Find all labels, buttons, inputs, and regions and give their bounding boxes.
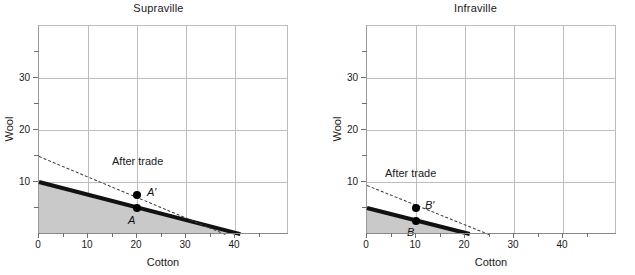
x-tick-minor-5 <box>63 233 64 237</box>
x-tick-minor-35 <box>538 233 539 237</box>
y-tick-20 <box>361 129 366 130</box>
data-point-B-prime <box>412 204 420 212</box>
y-tick-minor-15 <box>362 155 367 156</box>
x-ticklabel-20: 20 <box>130 239 141 250</box>
chart-panel-supraville: Supraville A′ A After trade <box>0 0 317 275</box>
after-trade-label-infraville: After trade <box>385 167 436 179</box>
y-ticklabel-10: 10 <box>340 176 358 187</box>
gridline-y-20 <box>39 130 287 131</box>
chart-title-supraville: Supraville <box>0 2 317 14</box>
y-tick-minor-35 <box>34 51 39 52</box>
x-axis-title-supraville: Cotton <box>147 256 179 268</box>
gridline-y-10 <box>367 182 615 183</box>
x-tick-minor-35 <box>210 233 211 237</box>
plot-area-supraville: A′ A After trade <box>38 25 288 233</box>
x-tick-0 <box>366 233 367 238</box>
y-tick-minor-5 <box>34 207 39 208</box>
gridline-y-10 <box>39 182 287 183</box>
y-tick-30 <box>33 77 38 78</box>
x-tick-20 <box>136 233 137 238</box>
data-point-B <box>412 217 420 225</box>
y-tick-20 <box>33 129 38 130</box>
data-point-label-B-prime: B′ <box>425 199 434 211</box>
x-tick-minor-45 <box>259 233 260 237</box>
x-tick-minor-45 <box>587 233 588 237</box>
y-tick-minor-25 <box>362 103 367 104</box>
x-tick-minor-15 <box>440 233 441 237</box>
x-tick-40 <box>562 233 563 238</box>
y-tick-minor-35 <box>362 51 367 52</box>
y-ticklabel-30: 30 <box>340 72 358 83</box>
x-tick-20 <box>464 233 465 238</box>
x-tick-minor-5 <box>391 233 392 237</box>
data-point-label-A-prime: A′ <box>147 186 156 198</box>
x-ticklabel-40: 40 <box>228 239 239 250</box>
gridline-y-30 <box>367 78 615 79</box>
x-ticklabel-20: 20 <box>458 239 469 250</box>
x-tick-30 <box>513 233 514 238</box>
y-tick-minor-5 <box>362 207 367 208</box>
after-trade-label-supraville: After trade <box>112 155 163 167</box>
y-tick-10 <box>33 181 38 182</box>
gridline-y-30 <box>39 78 287 79</box>
chart-title-infraville: Infraville <box>317 2 634 14</box>
chart-panel-infraville: Infraville B′ B After trade <box>317 0 634 275</box>
y-axis-title-infraville: Wool <box>331 117 343 142</box>
chart-figure: Supraville A′ A After trade <box>0 0 635 275</box>
x-ticklabel-10: 10 <box>409 239 420 250</box>
x-ticklabel-0: 0 <box>35 239 41 250</box>
x-tick-10 <box>415 233 416 238</box>
x-axis-line-supraville <box>38 233 288 234</box>
x-ticklabel-30: 30 <box>507 239 518 250</box>
x-axis-title-infraville: Cotton <box>475 256 507 268</box>
y-axis-title-supraville: Wool <box>3 117 15 142</box>
y-tick-10 <box>361 181 366 182</box>
data-point-label-B: B <box>407 226 414 238</box>
data-point-A <box>133 204 141 212</box>
x-tick-30 <box>185 233 186 238</box>
x-ticklabel-10: 10 <box>81 239 92 250</box>
x-ticklabel-30: 30 <box>179 239 190 250</box>
x-tick-minor-25 <box>489 233 490 237</box>
y-ticklabel-30: 30 <box>12 72 30 83</box>
plot-area-infraville: B′ B After trade <box>366 25 616 233</box>
x-tick-0 <box>38 233 39 238</box>
x-ticklabel-40: 40 <box>556 239 567 250</box>
x-tick-minor-15 <box>112 233 113 237</box>
data-point-A-prime <box>133 191 141 199</box>
data-point-label-A: A <box>128 214 135 226</box>
x-tick-40 <box>234 233 235 238</box>
y-tick-30 <box>361 77 366 78</box>
x-tick-minor-25 <box>161 233 162 237</box>
x-ticklabel-0: 0 <box>363 239 369 250</box>
y-tick-minor-15 <box>34 155 39 156</box>
gridline-y-20 <box>367 130 615 131</box>
y-ticklabel-10: 10 <box>12 176 30 187</box>
y-tick-minor-25 <box>34 103 39 104</box>
x-axis-line-infraville <box>366 233 616 234</box>
x-tick-10 <box>87 233 88 238</box>
